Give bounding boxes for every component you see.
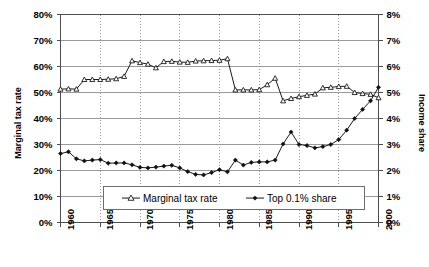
- y-axis-left-tick-label: 10%: [21, 191, 53, 202]
- y-axis-right-tick-label: 7%: [387, 35, 419, 46]
- y-axis-right-tick-label: 3%: [387, 139, 419, 150]
- y-axis-left-tick-label: 20%: [21, 165, 53, 176]
- y-axis-right-tick-label: 5%: [387, 87, 419, 98]
- x-axis-tick-label: 1985: [263, 208, 274, 229]
- x-axis-tick-label: 1990: [303, 208, 314, 229]
- y-axis-left-tick-label: 80%: [21, 9, 53, 20]
- x-axis-tick-label: 1980: [224, 208, 235, 229]
- filled-diamond-marker-icon: [246, 193, 264, 203]
- chart-legend: Marginal tax rateTop 0.1% share: [103, 186, 365, 210]
- x-axis-tick-label: 1975: [184, 208, 195, 229]
- x-axis-tick-label: 1965: [104, 208, 115, 229]
- legend-item-label: Marginal tax rate: [143, 193, 217, 204]
- y-axis-left-tick-label: 70%: [21, 35, 53, 46]
- legend-item: Top 0.1% share: [246, 192, 337, 204]
- legend-item-label: Top 0.1% share: [267, 193, 337, 204]
- y-axis-right-tick-label: 1%: [387, 191, 419, 202]
- y-axis-right-tick-label: 4%: [387, 113, 419, 124]
- y-axis-left-tick-label: 50%: [21, 87, 53, 98]
- x-axis-tick-label: 1995: [343, 208, 354, 229]
- x-axis-tick-label: 1970: [144, 208, 155, 229]
- x-axis-tick-label: 1960: [65, 208, 76, 229]
- y-axis-left-tick-label: 40%: [21, 113, 53, 124]
- y-axis-right-tick-label: 2%: [387, 165, 419, 176]
- y-axis-left-tick-label: 60%: [21, 61, 53, 72]
- y-axis-left-tick-label: 30%: [21, 139, 53, 150]
- legend-item: Marginal tax rate: [122, 192, 217, 204]
- chart-figure: Marginal tax rate Income share 0%10%20%3…: [0, 0, 429, 267]
- open-triangle-marker-icon: [122, 193, 140, 203]
- y-axis-right-tick-label: 6%: [387, 61, 419, 72]
- y-axis-right-tick-label: 8%: [387, 9, 419, 20]
- y-axis-left-tick-label: 0%: [21, 217, 53, 228]
- y-axis-right-title: Income share: [417, 73, 427, 173]
- x-axis-tick-label: 2000: [383, 208, 394, 229]
